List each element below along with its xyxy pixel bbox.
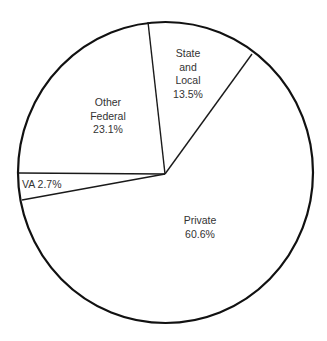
slice-label-private: Private 60.6% <box>176 214 224 241</box>
other-federal-percent: 23.1% <box>80 123 136 137</box>
other-federal-name-line1: Other <box>80 96 136 110</box>
va-percent: 2.7% <box>38 178 62 190</box>
state-local-percent: 13.5% <box>168 88 208 102</box>
slice-label-va: VA 2.7% <box>22 178 62 192</box>
private-name: Private <box>176 214 224 228</box>
state-local-name-line2: and <box>168 61 208 75</box>
other-federal-name-line2: Federal <box>80 110 136 124</box>
pie-chart <box>0 0 327 341</box>
spoke-other-federal-va <box>19 173 165 174</box>
state-local-name-line1: State <box>168 47 208 61</box>
private-percent: 60.6% <box>176 228 224 242</box>
state-local-name-line3: Local <box>168 74 208 88</box>
va-name: VA <box>22 178 38 190</box>
slice-label-state-local: State and Local 13.5% <box>168 47 208 101</box>
slice-label-other-federal: Other Federal 23.1% <box>80 96 136 137</box>
